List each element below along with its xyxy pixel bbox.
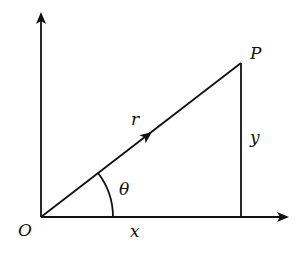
origin-label: O: [18, 220, 32, 240]
polar-diagram: P r y θ O x: [0, 0, 301, 253]
radius-line: [41, 63, 241, 217]
point-label: P: [249, 43, 262, 63]
x-label: x: [130, 221, 140, 241]
radius-label: r: [131, 109, 140, 129]
angle-arc: [98, 173, 113, 217]
y-label: y: [249, 127, 260, 147]
angle-label: θ: [119, 179, 129, 199]
